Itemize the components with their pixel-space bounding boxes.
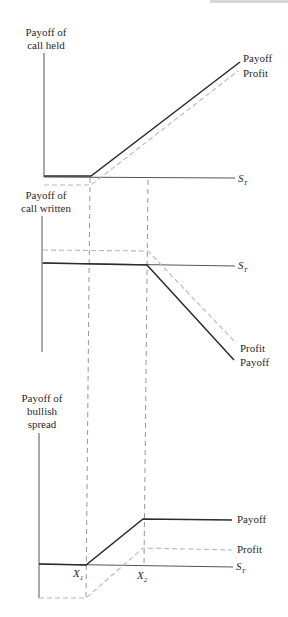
panel2-profit-label: Profit <box>240 342 265 355</box>
x1-strike-label: X1 <box>73 567 83 585</box>
x2-guide-line <box>144 180 148 566</box>
x1-guide-line <box>86 178 90 598</box>
panel3-ylabel: Payoff of bullish spread <box>18 392 66 431</box>
panel2-st-label: ST <box>238 259 247 277</box>
payoff-line <box>39 519 232 565</box>
panel1-ylabel: Payoff of call held <box>22 26 70 52</box>
panel1-payoff-label: Payoff <box>243 52 272 65</box>
panel2-payoff-label: Payoff <box>240 356 269 369</box>
payoff-line <box>44 62 240 176</box>
panel2-ylabel: Payoff of call written <box>16 189 76 215</box>
panel3-profit-label: Profit <box>237 543 262 556</box>
panel-call-written <box>42 216 236 360</box>
panel3-st-label: ST <box>236 560 245 578</box>
profit-line <box>39 548 232 598</box>
panel-bullish-spread <box>39 433 233 598</box>
x-axis <box>44 177 235 178</box>
panel1-profit-label: Profit <box>243 67 268 80</box>
profit-line <box>44 71 238 185</box>
panel-call-held <box>44 53 240 185</box>
panel1-st-label: ST <box>238 172 247 190</box>
x2-strike-label: X2 <box>137 569 147 587</box>
panel3-payoff-label: Payoff <box>237 513 266 526</box>
